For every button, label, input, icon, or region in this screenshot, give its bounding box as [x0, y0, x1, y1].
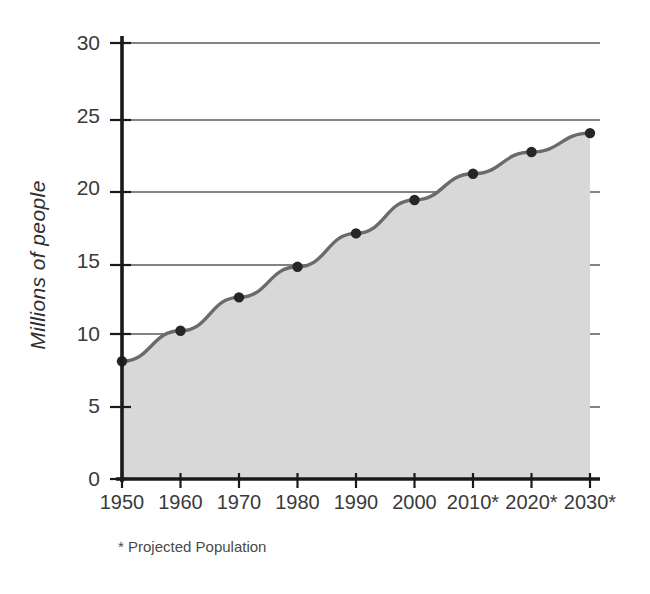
data-point-1990 [351, 228, 361, 238]
y-tick-label-10: 10 [54, 323, 100, 344]
data-point-1970 [234, 292, 244, 302]
y-tick-label-0: 0 [54, 468, 100, 489]
data-point-2030 [585, 128, 595, 138]
y-tick-label-30: 30 [54, 32, 100, 53]
data-area-and-line [117, 128, 595, 479]
data-point-2010 [468, 169, 478, 179]
data-point-1980 [292, 262, 302, 272]
y-tick-label-5: 5 [54, 395, 100, 416]
area-fill [122, 133, 590, 479]
population-area-chart: Millions of people [0, 0, 650, 594]
data-point-2020 [526, 147, 536, 157]
x-tick-label-2030: 2030* [550, 492, 630, 512]
y-tick-label-20: 20 [54, 177, 100, 198]
data-point-2000 [409, 195, 419, 205]
projected-population-footnote: * Projected Population [118, 538, 266, 555]
y-tick-label-15: 15 [54, 250, 100, 271]
y-tick-label-25: 25 [54, 105, 100, 126]
data-point-1960 [175, 326, 185, 336]
